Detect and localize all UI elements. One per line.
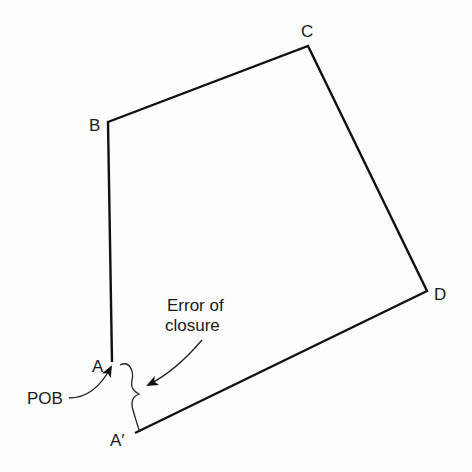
- vertex-label-c: C: [301, 22, 313, 41]
- pob-arrow: [69, 367, 111, 398]
- traverse-polyline: [108, 46, 427, 433]
- vertex-label-b: B: [89, 116, 100, 135]
- error-arrow: [148, 340, 202, 385]
- traverse-diagram: A B C D A′ Error of closure POB: [0, 0, 472, 472]
- pob-label: POB: [27, 389, 63, 408]
- vertex-label-d: D: [434, 285, 446, 304]
- error-brace: [120, 364, 140, 432]
- error-of-closure-line2: closure: [165, 316, 220, 335]
- diagram-svg: A B C D A′ Error of closure POB: [0, 0, 472, 472]
- vertex-label-a-prime: A′: [110, 431, 125, 450]
- error-of-closure-line1: Error of: [167, 296, 224, 315]
- vertex-label-a: A: [92, 357, 104, 376]
